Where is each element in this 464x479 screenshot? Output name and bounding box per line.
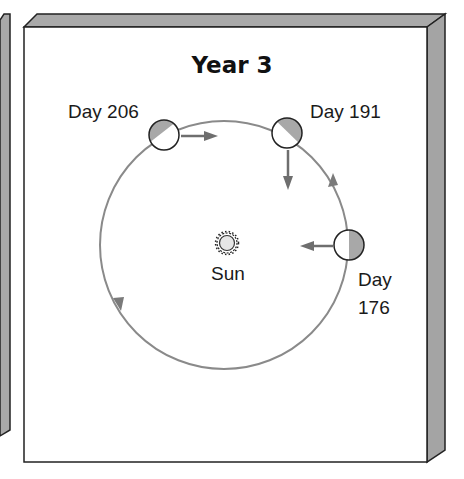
planet-label-day-191: Day 191 [310,101,381,122]
diagram-title: Year 3 [190,52,272,78]
panel-frame [24,14,445,462]
planet-label-day-176-line2: 176 [358,297,390,318]
planet-label-day-176-line1: Day [358,269,392,290]
panel-right-bevel [427,14,445,462]
orbit-diagram: Year 3 Sun Day 206 Day 191 [0,0,464,479]
panel-top-bevel [24,14,445,27]
sun-label: Sun [211,263,245,284]
left-neighbor-panel [0,14,10,436]
planet-label-day-206: Day 206 [68,101,139,122]
